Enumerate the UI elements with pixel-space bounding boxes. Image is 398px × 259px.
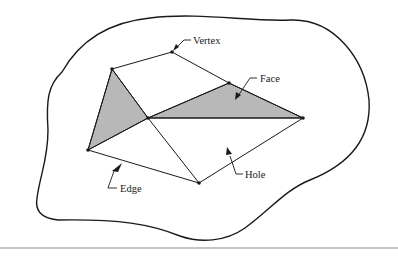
shaded-face-left bbox=[88, 69, 148, 150]
vertex-arrowhead-icon bbox=[173, 44, 179, 51]
outer-boundary bbox=[37, 16, 370, 240]
edge-arrowhead-icon bbox=[112, 163, 122, 172]
edge-a-b bbox=[112, 52, 172, 69]
edge-label: Edge bbox=[120, 183, 142, 194]
edge-leader-line bbox=[108, 171, 117, 188]
hole-label: Hole bbox=[245, 169, 266, 180]
edge-f-g bbox=[88, 150, 199, 183]
edge-b-c bbox=[172, 52, 229, 83]
vertex-c bbox=[227, 81, 231, 85]
mesh-topology-diagram: Vertex Face Edge Hole bbox=[0, 0, 398, 259]
shaded-face-right bbox=[148, 83, 303, 118]
hole-leader-line bbox=[230, 156, 243, 174]
hole-callout: Hole bbox=[226, 147, 266, 180]
hole-arrowhead-icon bbox=[226, 147, 232, 155]
vertex-label: Vertex bbox=[193, 35, 221, 46]
vertex-f bbox=[86, 148, 90, 152]
edge-callout: Edge bbox=[108, 163, 142, 194]
vertex-callout: Vertex bbox=[173, 35, 221, 51]
vertex-a bbox=[110, 67, 114, 71]
vertex-g bbox=[197, 181, 201, 185]
vertex-d bbox=[301, 116, 305, 120]
face-label: Face bbox=[260, 73, 280, 84]
vertex-e bbox=[146, 116, 150, 120]
edge-e-g bbox=[148, 118, 199, 183]
